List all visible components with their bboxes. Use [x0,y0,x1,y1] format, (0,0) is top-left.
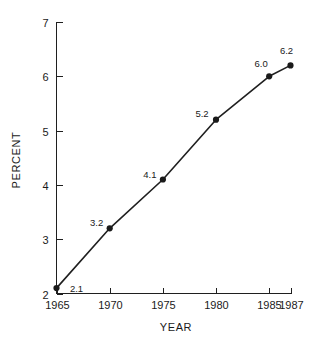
x-axis-ticks [58,288,292,294]
x-tick-label: 1987 [279,299,303,311]
data-point-label: 2.1 [70,283,83,294]
data-point-label: 6.0 [255,58,268,69]
x-axis-tick-labels: 196519701975198019851987 [45,299,303,311]
data-point-marker [160,176,166,182]
x-tick-label: 1965 [45,299,69,311]
y-axis-title: PERCENT [10,132,22,189]
data-point-marker [213,117,219,123]
y-tick-label: 5 [42,126,48,138]
y-tick-label: 7 [42,17,48,29]
y-tick-label: 6 [42,71,48,83]
data-point-marker [266,73,272,79]
data-point-marker [107,225,113,231]
data-point-marker [287,62,293,68]
y-axis-ticks [57,23,63,295]
data-point-label: 6.2 [280,45,293,56]
y-tick-label: 3 [42,234,48,246]
x-tick-label: 1980 [204,299,228,311]
data-point-markers [53,62,293,291]
x-tick-label: 1970 [98,299,122,311]
data-point-labels: 2.13.24.15.26.06.2 [70,45,293,294]
x-axis-title: YEAR [160,321,192,333]
x-tick-label: 1985 [257,299,281,311]
y-tick-label: 4 [42,180,48,192]
data-point-label: 4.1 [143,169,156,180]
data-point-label: 3.2 [90,217,103,228]
chart-canvas: 234567 196519701975198019851987 2.13.24.… [0,0,326,345]
line-chart: 234567 196519701975198019851987 2.13.24.… [0,0,326,345]
data-point-marker [53,285,59,291]
x-tick-label: 1975 [151,299,175,311]
data-point-label: 5.2 [195,108,208,119]
series-line-percent [57,65,291,288]
y-axis-tick-labels: 234567 [42,17,48,301]
